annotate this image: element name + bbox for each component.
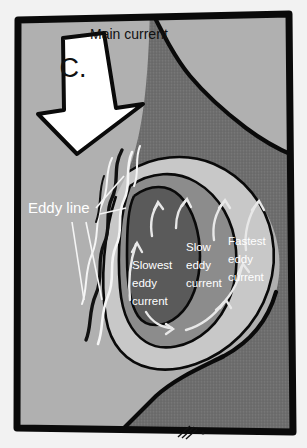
diagram-canvas: Main current C. Eddy line Slowest eddy c… [0,0,307,448]
scene-contents: Main current C. Eddy line Slowest eddy c… [10,8,300,440]
main-current-label: Main current [90,26,168,42]
svg-text:current: current [186,277,223,289]
svg-text:eddy: eddy [186,259,211,271]
svg-text:eddy: eddy [228,253,253,265]
svg-text:current: current [132,295,169,307]
eddy-line-label: Eddy line [28,199,90,216]
svg-text:Fastest: Fastest [228,235,267,247]
svg-text:Slow: Slow [186,241,212,253]
svg-text:Slowest: Slowest [132,259,173,271]
eddy-diagram-svg: Main current C. Eddy line Slowest eddy c… [0,0,307,448]
svg-text:eddy: eddy [132,277,157,289]
panel-letter: C. [60,53,87,83]
svg-text:current: current [228,271,265,283]
